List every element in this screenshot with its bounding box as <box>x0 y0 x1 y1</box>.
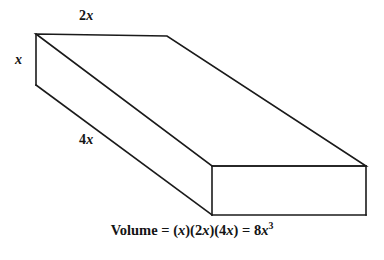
rectangular-prism-drawing <box>0 0 384 260</box>
volume-formula-caption: Volume = (x)(2x)(4x) = 8x3 <box>0 222 384 239</box>
caption-exponent: 3 <box>268 220 273 231</box>
dimension-label-length: 4x <box>79 133 93 147</box>
dimension-label-width: 2x <box>79 9 93 23</box>
dimension-label-length-variable: x <box>86 132 93 147</box>
caption-lead: Volume = ( <box>111 222 178 238</box>
geometry-figure: 2x x 4x Volume = (x)(2x)(4x) = 8x3 <box>0 0 384 260</box>
caption-var-3: x <box>226 222 233 238</box>
caption-mid-2: )(4 <box>209 222 226 238</box>
dimension-label-height: x <box>15 53 22 67</box>
caption-mid-3: ) = 8 <box>234 222 262 238</box>
caption-mid-1: )(2 <box>185 222 202 238</box>
dimension-label-width-variable: x <box>86 8 93 23</box>
dimension-label-height-variable: x <box>15 52 22 67</box>
prism-front-face <box>212 166 366 215</box>
